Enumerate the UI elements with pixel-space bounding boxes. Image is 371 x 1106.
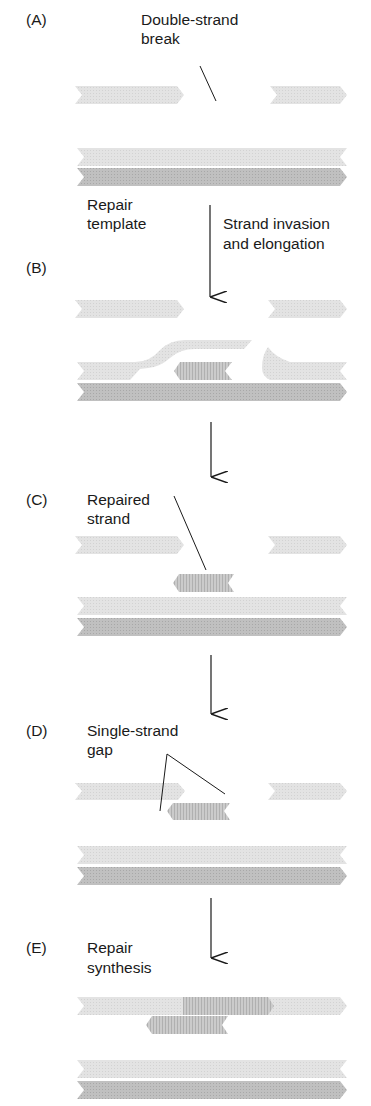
elongating-strand [174, 362, 232, 380]
template-strand-light [77, 148, 347, 166]
template-strand-dark [77, 1081, 347, 1099]
invading-strand-right [262, 347, 347, 380]
template-strand-dark [77, 383, 347, 401]
broken-strand-right [268, 783, 347, 800]
panel-a [75, 66, 347, 186]
break-pointer-line [200, 66, 216, 101]
repaired-second-strand [146, 1016, 228, 1034]
template-strand-dark [77, 867, 347, 885]
broken-strand-left [75, 536, 184, 554]
panel-c [75, 496, 347, 636]
template-strand-dark [77, 168, 347, 186]
broken-strand-right [268, 300, 347, 318]
panel-d [75, 754, 347, 885]
short-strand [167, 803, 230, 820]
template-strand-light [77, 597, 347, 615]
broken-strand-left [75, 86, 184, 104]
template-strand-light [77, 1060, 347, 1078]
broken-strand-right [268, 536, 347, 554]
broken-strand-left [75, 783, 185, 800]
template-strand-dark [77, 618, 347, 636]
panel-e [77, 997, 347, 1099]
gap-pointer-lines [160, 754, 225, 811]
template-strand-light [77, 846, 347, 864]
synthesized-segment [183, 997, 274, 1015]
repaired-pointer-line [174, 496, 206, 570]
broken-strand-left [75, 300, 184, 318]
broken-strand-right [270, 86, 347, 104]
dsb-repair-diagram [0, 0, 371, 1106]
repaired-strand [173, 574, 234, 592]
panel-b [75, 300, 347, 401]
